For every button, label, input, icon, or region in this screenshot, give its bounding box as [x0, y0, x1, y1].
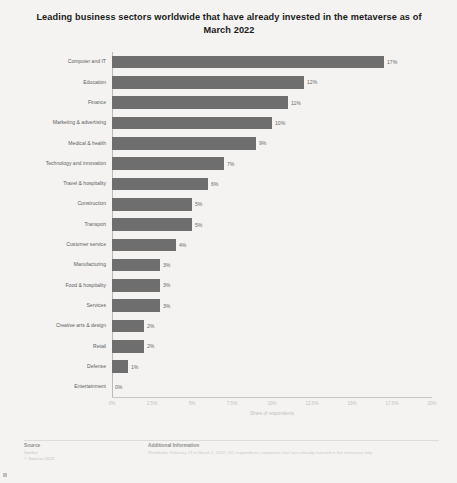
category-label: Defense — [24, 364, 112, 370]
chart-plot-area: Computer and IT17%Education12%Finance11%… — [24, 52, 432, 410]
category-label: Computer and IT — [24, 59, 112, 65]
category-label: Marketing & advertising — [24, 120, 112, 126]
footer-divider — [24, 440, 439, 441]
bar-value-label: 1% — [131, 364, 138, 370]
bar-row: Defense1% — [24, 356, 432, 376]
bar-row: Customer service4% — [24, 235, 432, 255]
bar — [112, 259, 160, 272]
bar — [112, 299, 160, 312]
bar-track: 4% — [112, 235, 432, 255]
x-axis-tick-label: 5% — [189, 401, 196, 406]
category-label: Transport — [24, 222, 112, 228]
footer-source-column: Source Sortlist © Statista 2023 — [24, 443, 134, 463]
page-corner-mark — [3, 473, 7, 477]
bar-value-label: 2% — [147, 343, 154, 349]
bar-row: Creative arts & design2% — [24, 316, 432, 336]
x-axis-tick-label: 20% — [427, 401, 436, 406]
bar-value-label: 12% — [307, 79, 317, 85]
bar-track: 7% — [112, 153, 432, 173]
category-label: Manufacturing — [24, 262, 112, 268]
bar — [112, 340, 144, 353]
category-label: Construction — [24, 201, 112, 207]
bar — [112, 320, 144, 333]
bar-row: Retail2% — [24, 336, 432, 356]
category-label: Education — [24, 80, 112, 86]
bar — [112, 137, 256, 150]
bar-track: 0% — [112, 377, 432, 397]
bar-value-label: 11% — [291, 100, 301, 106]
category-label: Technology and innovation — [24, 161, 112, 167]
bar-row: Marketing & advertising10% — [24, 113, 432, 133]
x-axis-tick-label: 2.5% — [147, 401, 157, 406]
bar-row: Entertainment0% — [24, 377, 432, 397]
bar-track: 3% — [112, 275, 432, 295]
bar-track: 3% — [112, 255, 432, 275]
bar-track: 6% — [112, 174, 432, 194]
bar-row: Travel & hospitality6% — [24, 174, 432, 194]
x-axis-label: Share of respondents — [112, 411, 432, 416]
bar-rows: Computer and IT17%Education12%Finance11%… — [24, 52, 432, 397]
bar-value-label: 3% — [163, 303, 170, 309]
bar-value-label: 5% — [195, 201, 202, 207]
category-label: Medical & health — [24, 141, 112, 147]
bar-row: Technology and innovation7% — [24, 153, 432, 173]
bar — [112, 279, 160, 292]
bar — [112, 239, 176, 252]
bar-track: 9% — [112, 133, 432, 153]
bar — [112, 117, 272, 130]
bar — [112, 198, 192, 211]
bar-value-label: 6% — [211, 181, 218, 187]
category-label: Finance — [24, 100, 112, 106]
bar-row: Medical & health9% — [24, 133, 432, 153]
bar-row: Computer and IT17% — [24, 52, 432, 72]
bar — [112, 218, 192, 231]
bar-track: 1% — [112, 356, 432, 376]
bar-track: 11% — [112, 93, 432, 113]
footer-info-column: Additional Information Worldwide; Februa… — [148, 443, 439, 455]
x-axis-tick-label: 15% — [347, 401, 356, 406]
source-heading: Source — [24, 443, 134, 448]
chart-footer: Source Sortlist © Statista 2023 Addition… — [24, 440, 439, 480]
bar-track: 3% — [112, 296, 432, 316]
additional-information-text: Worldwide; February 23 to March 1, 2022;… — [148, 450, 439, 456]
bar-row: Education12% — [24, 72, 432, 92]
bar-row: Transport5% — [24, 214, 432, 234]
category-label: Customer service — [24, 242, 112, 248]
category-label: Creative arts & design — [24, 323, 112, 329]
x-axis-line — [112, 397, 432, 398]
chart-page: Leading business sectors worldwide that … — [0, 0, 457, 483]
bar-track: 10% — [112, 113, 432, 133]
bar-track: 17% — [112, 52, 432, 72]
x-axis-tick-label: 17.5% — [385, 401, 398, 406]
bar-value-label: 3% — [163, 262, 170, 268]
x-axis-tick-label: 10% — [267, 401, 276, 406]
bar-value-label: 5% — [195, 222, 202, 228]
x-axis-ticks: 0%2.5%5%7.5%10%12.5%15%17.5%20% — [112, 401, 432, 411]
bar-row: Manufacturing3% — [24, 255, 432, 275]
bar-value-label: 4% — [179, 242, 186, 248]
bar-track: 2% — [112, 336, 432, 356]
copyright-text: © Statista 2023 — [24, 456, 134, 463]
bar-track: 2% — [112, 316, 432, 336]
bar — [112, 96, 288, 109]
bar-value-label: 10% — [275, 120, 285, 126]
source-name: Sortlist — [24, 450, 134, 457]
chart-title: Leading business sectors worldwide that … — [28, 11, 430, 38]
x-axis-tick-label: 12.5% — [305, 401, 318, 406]
x-axis: 0%2.5%5%7.5%10%12.5%15%17.5%20% Share of… — [112, 397, 432, 421]
bar-row: Food & hospitality3% — [24, 275, 432, 295]
bar-value-label: 7% — [227, 161, 234, 167]
bar — [112, 360, 128, 373]
bar-value-label: 17% — [387, 59, 397, 65]
bar — [112, 56, 384, 69]
bar-value-label: 3% — [163, 282, 170, 288]
bar-row: Services3% — [24, 296, 432, 316]
bar — [112, 157, 224, 170]
bar-track: 5% — [112, 214, 432, 234]
additional-information-heading: Additional Information — [148, 443, 439, 448]
category-label: Entertainment — [24, 384, 112, 390]
category-label: Retail — [24, 344, 112, 350]
x-axis-tick-label: 7.5% — [227, 401, 237, 406]
x-axis-tick-label: 0% — [109, 401, 116, 406]
bar-value-label: 0% — [115, 384, 122, 390]
